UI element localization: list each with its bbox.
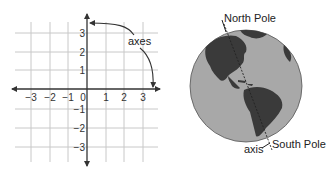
x-tick: −1 xyxy=(62,92,74,103)
x-tick: 1 xyxy=(103,92,109,103)
arrow-to-x-axis xyxy=(140,48,153,87)
x-tick: −2 xyxy=(44,92,56,103)
x-tick: −3 xyxy=(25,92,37,103)
figure: −3 −2 −1 0 1 2 3 3 2 1 −1 −2 −3 axes xyxy=(0,0,332,175)
x-tick: 0 xyxy=(80,92,86,103)
y-tick: 2 xyxy=(79,47,85,58)
x-tick-labels: −3 −2 −1 0 1 2 3 xyxy=(25,92,146,103)
x-tick: 3 xyxy=(140,92,146,103)
y-tick: −2 xyxy=(74,123,86,134)
south-pole-label: South Pole xyxy=(272,138,326,150)
north-pole-label: North Pole xyxy=(224,12,276,24)
y-tick-labels: 3 2 1 −1 −2 −3 xyxy=(74,28,86,153)
y-tick: −3 xyxy=(74,142,86,153)
globe: North Pole South Pole axis xyxy=(190,12,326,155)
x-tick: 2 xyxy=(121,92,127,103)
y-tick: 3 xyxy=(79,28,85,39)
coordinate-plane: −3 −2 −1 0 1 2 3 3 2 1 −1 −2 −3 axes xyxy=(12,14,160,166)
axes-label: axes xyxy=(128,35,152,47)
y-tick: −1 xyxy=(74,104,86,115)
axis-label: axis xyxy=(244,143,264,155)
y-tick: 1 xyxy=(79,65,85,76)
